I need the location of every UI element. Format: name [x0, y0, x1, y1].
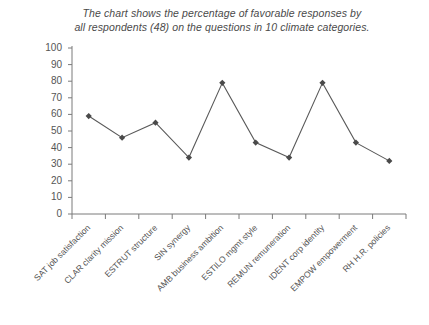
- x-axis-ticks: [72, 214, 406, 219]
- y-axis-ticks: [68, 48, 72, 214]
- y-axis-tick-label: 40: [32, 143, 62, 153]
- data-point-marker[interactable]: [253, 140, 259, 146]
- data-point-marker[interactable]: [353, 140, 359, 146]
- y-axis-tick-label: 50: [32, 126, 62, 136]
- data-point-marker[interactable]: [319, 80, 325, 86]
- chart-axes: [72, 46, 406, 214]
- y-axis-tick-label: 20: [32, 176, 62, 186]
- data-point-marker[interactable]: [86, 113, 92, 119]
- data-point-marker[interactable]: [119, 135, 125, 141]
- y-axis-tick-label: 30: [32, 159, 62, 169]
- y-axis-tick-label: 80: [32, 76, 62, 86]
- y-axis-tick-label: 70: [32, 93, 62, 103]
- data-point-marker[interactable]: [219, 80, 225, 86]
- y-axis-tick-label: 10: [32, 192, 62, 202]
- y-axis-tick-label: 0: [32, 209, 62, 219]
- y-axis-tick-label: 90: [32, 60, 62, 70]
- chart-container: The chart shows the percentage of favora…: [0, 0, 429, 325]
- data-point-marker[interactable]: [386, 158, 392, 164]
- data-point-marker[interactable]: [286, 154, 292, 160]
- data-markers: [86, 80, 393, 164]
- y-axis-tick-label: 100: [32, 43, 62, 53]
- data-line: [89, 83, 390, 161]
- y-axis-tick-label: 60: [32, 109, 62, 119]
